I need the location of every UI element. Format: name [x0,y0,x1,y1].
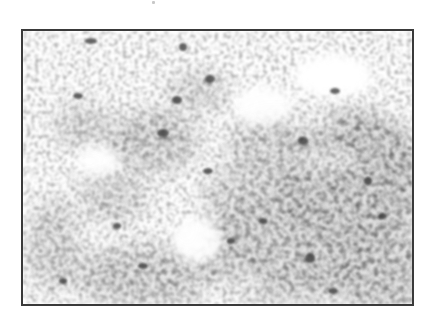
top-mark [152,1,155,4]
micrograph-image [23,31,412,304]
micrograph-figure [21,29,414,306]
